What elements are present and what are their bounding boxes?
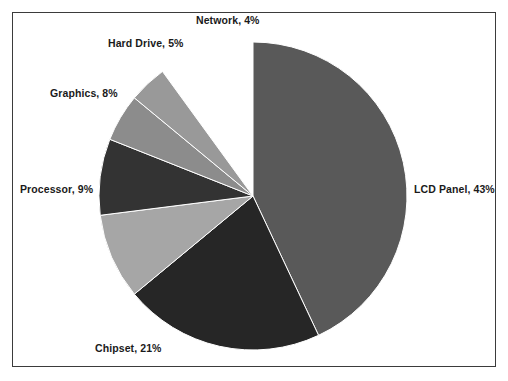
slice-label-processor: Processor, 9% <box>20 183 93 195</box>
slice-label-hard-drive: Hard Drive, 5% <box>108 37 184 49</box>
slice-label-network: Network, 4% <box>196 14 260 26</box>
slice-label-lcd-panel: LCD Panel, 43% <box>414 183 495 195</box>
slice-label-graphics: Graphics, 8% <box>50 87 118 99</box>
pie-chart-figure: LCD Panel, 43% Chipset, 21% Processor, 9… <box>0 0 508 381</box>
slice-label-chipset: Chipset, 21% <box>95 342 162 354</box>
pie-slice-group <box>99 42 407 350</box>
